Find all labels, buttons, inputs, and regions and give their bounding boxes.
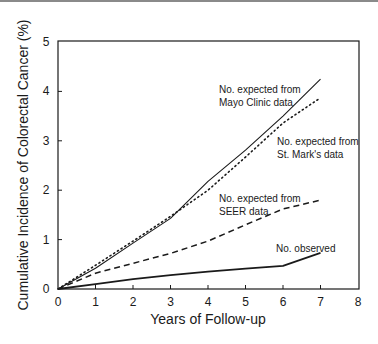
x-tick-label: 6 (280, 295, 287, 309)
series-annotation-2: No. expected fromSEER data (219, 193, 301, 217)
x-tick-label: 0 (55, 295, 62, 309)
x-tick-label: 3 (167, 295, 174, 309)
y-tick-label: 3 (43, 134, 50, 148)
x-tick-label: 8 (355, 295, 362, 309)
series-annotation-3: No. observed (276, 243, 335, 254)
line-chart: 012345678 012345 No. expected fromMayo C… (0, 0, 378, 344)
series-line-3 (58, 253, 321, 289)
y-axis-ticks: 012345 (43, 35, 62, 296)
x-tick-label: 7 (317, 295, 324, 309)
y-tick-label: 4 (43, 84, 50, 98)
y-tick-label: 1 (43, 233, 50, 247)
x-tick-label: 5 (242, 295, 249, 309)
x-tick-label: 1 (92, 295, 99, 309)
y-tick-label: 0 (43, 282, 50, 296)
x-tick-label: 4 (205, 295, 212, 309)
x-tick-label: 2 (130, 295, 137, 309)
x-axis-title: Years of Follow-up (150, 311, 266, 327)
series-annotation-0: No. expected fromMayo Clinic data (219, 84, 301, 108)
series-annotations: No. expected fromMayo Clinic dataNo. exp… (219, 84, 359, 254)
y-tick-label: 5 (43, 35, 50, 49)
y-tick-label: 2 (43, 183, 50, 197)
series-annotation-1: No. expected fromSt. Mark's data (277, 136, 359, 160)
y-axis-title: Cumulative Incidence of Colorectal Cance… (15, 19, 31, 310)
series-lines (58, 79, 321, 289)
series-line-0 (58, 79, 321, 289)
